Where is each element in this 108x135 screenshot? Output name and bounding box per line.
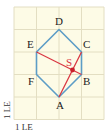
unit-label-y: 1 LE <box>2 101 12 119</box>
intersection-point-S <box>70 68 75 73</box>
geometry-figure: D E C F B A S 1 LE 1 LE <box>0 0 108 135</box>
label-C: C <box>83 38 90 50</box>
label-S: S <box>66 56 72 68</box>
unit-label-x: 1 LE <box>15 122 33 132</box>
label-B: B <box>83 75 90 87</box>
label-E: E <box>27 38 34 50</box>
label-F: F <box>28 75 34 87</box>
label-D: D <box>55 15 63 27</box>
label-A: A <box>56 99 64 111</box>
